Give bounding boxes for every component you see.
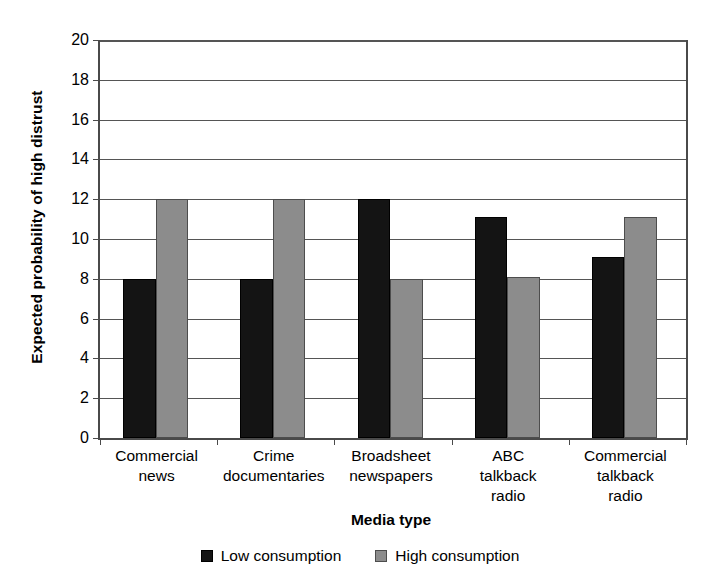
y-axis-tick-label: 20	[71, 32, 89, 48]
y-axis-tick-label: 18	[71, 72, 89, 88]
x-axis-category-label: ABC talkback radio	[450, 446, 567, 505]
y-axis-tick-label: 2	[80, 390, 89, 406]
x-axis-category-labels: Commercial newsCrime documentariesBroads…	[98, 446, 684, 516]
y-axis-tick-label: 8	[80, 271, 89, 287]
y-axis-tick-label: 16	[71, 112, 89, 128]
y-axis-tick-label: 6	[80, 311, 89, 327]
bar-low-consumption	[240, 279, 273, 438]
x-axis-title: Media type	[98, 511, 684, 529]
y-axis-tick	[93, 398, 100, 399]
x-axis-category-label: Broadsheet newspapers	[332, 446, 449, 486]
bar-low-consumption	[475, 217, 508, 438]
black-square-icon	[201, 550, 213, 562]
chart-legend: Low consumptionHigh consumption	[0, 548, 720, 564]
legend-item: Low consumption	[201, 548, 342, 564]
y-axis-tick	[93, 239, 100, 240]
x-axis-tick	[217, 438, 218, 445]
y-axis-tick	[93, 319, 100, 320]
x-axis-tick	[100, 438, 101, 445]
bar-low-consumption	[123, 279, 156, 438]
x-axis-tick	[452, 438, 453, 445]
y-axis-tick	[93, 358, 100, 359]
bar-chart-figure: Expected probability of high distrust 02…	[0, 0, 720, 577]
bar-high-consumption	[624, 217, 657, 438]
bar-series-container	[100, 40, 686, 438]
bar-low-consumption	[358, 199, 391, 438]
y-axis-tick-label: 10	[71, 231, 89, 247]
legend-item-label: High consumption	[395, 548, 519, 564]
bar-high-consumption	[273, 199, 306, 438]
bar-high-consumption	[156, 199, 189, 438]
x-axis-tick	[686, 438, 687, 445]
legend-item-label: Low consumption	[221, 548, 342, 564]
y-axis-title: Expected probability of high distrust	[28, 27, 46, 427]
x-axis-category-label: Crime documentaries	[215, 446, 332, 486]
bar-low-consumption	[592, 257, 625, 438]
y-axis-tick	[93, 279, 100, 280]
x-axis-category-label: Commercial talkback radio	[567, 446, 684, 505]
x-axis-category-label: Commercial news	[98, 446, 215, 486]
bar-high-consumption	[507, 277, 540, 438]
y-axis-tick-label: 4	[80, 350, 89, 366]
x-axis-tick	[569, 438, 570, 445]
x-axis-tick	[334, 438, 335, 445]
plot-area: 02468101214161820	[98, 40, 688, 440]
gray-square-icon	[375, 550, 387, 562]
y-axis-tick	[93, 199, 100, 200]
bar-high-consumption	[390, 279, 423, 438]
y-axis-tick	[93, 159, 100, 160]
y-axis-tick	[93, 80, 100, 81]
y-axis-tick-label: 12	[71, 191, 89, 207]
legend-item: High consumption	[375, 548, 519, 564]
y-axis-tick	[93, 438, 100, 439]
y-axis-tick	[93, 40, 100, 41]
y-axis-tick-label: 0	[80, 430, 89, 446]
y-axis-tick-label: 14	[71, 151, 89, 167]
y-axis-tick	[93, 120, 100, 121]
